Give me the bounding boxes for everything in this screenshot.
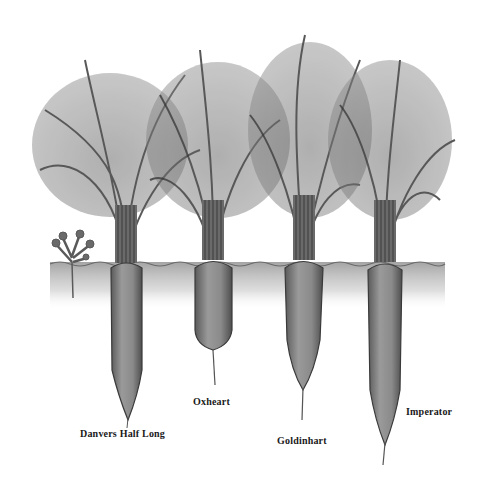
illustration-canvas [0,0,481,496]
label-goldinhart: Goldinhart [277,435,327,446]
label-imperator: Imperator [406,406,452,417]
label-danvers-half-long: Danvers Half Long [80,428,165,439]
label-oxheart: Oxheart [193,396,230,407]
carrot-varieties-illustration: Danvers Half Long Oxheart Goldinhart Imp… [0,0,481,496]
